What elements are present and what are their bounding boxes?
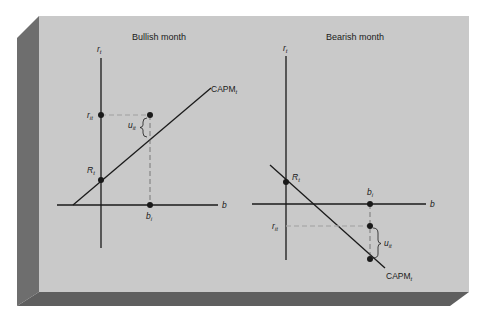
intercept-point [98,177,104,183]
return-point [367,223,373,229]
figure: Bullish month rt b CAPMt uit rit Rt bi B… [0,0,483,330]
panel-bottom-edge [17,292,469,306]
beta-point [367,201,373,207]
beta-point [147,202,153,208]
bullish-title: Bullish month [132,32,186,42]
capm-label: CAPMt [386,271,413,282]
return-point [147,112,153,118]
capm-point [367,256,373,262]
capm-label: CAPMt [211,84,238,95]
x-axis-label: b [430,199,435,209]
panel-face [39,16,469,292]
return-point-axis [98,112,104,118]
bearish-title: Bearish month [326,32,384,42]
x-axis-label: b [222,200,227,210]
intercept-point [283,179,289,185]
panel-left-edge [17,16,39,306]
